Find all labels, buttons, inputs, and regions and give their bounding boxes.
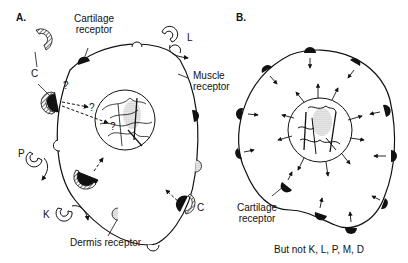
muscle-label-line2: receptor <box>193 81 230 92</box>
receptor-top-right <box>132 42 142 47</box>
cartilage-b-line1: Cartilage <box>234 202 280 213</box>
cartilage-label-line1: Cartilage <box>72 13 116 24</box>
muscle-label-line1: Muscle <box>193 70 230 81</box>
dermis-receptor-label: Dermis receptor <box>70 237 141 248</box>
cartilage-b-line2: receptor <box>234 213 280 224</box>
nucleus-stipple-a <box>123 101 141 129</box>
ligand-l-label: L <box>187 32 193 43</box>
panel-a-label: A. <box>16 12 26 23</box>
ligand-p-label: P <box>18 148 25 159</box>
cartilage-label-line2: receptor <box>72 24 116 35</box>
ligand-c-label-right: C <box>197 202 204 213</box>
cartilage-receptor-label-a: Cartilage receptor <box>72 13 116 35</box>
ligand-k-label: K <box>43 209 50 220</box>
ligand-c-free <box>35 29 52 98</box>
receptor-bottom <box>147 245 159 251</box>
question-mark-1: ? <box>63 80 69 91</box>
muscle-receptor-label: Muscle receptor <box>193 70 230 92</box>
ligand-p <box>26 152 48 180</box>
dermis-receptor-right <box>195 160 202 172</box>
nucleus-stipple-b <box>312 108 332 136</box>
cartilage-receptor-label-b: Cartilage receptor <box>234 202 280 224</box>
panel-b-label: B. <box>236 12 246 23</box>
question-mark-2: ? <box>89 102 95 113</box>
c-bound-receptor-left <box>41 92 59 114</box>
caption-b: But not K, L, P, M, D <box>274 244 364 255</box>
muscle-receptor <box>170 45 181 53</box>
ligand-c-label-top: C <box>31 68 38 79</box>
question-mark-3: ? <box>110 121 116 132</box>
diagram-canvas <box>0 0 408 263</box>
